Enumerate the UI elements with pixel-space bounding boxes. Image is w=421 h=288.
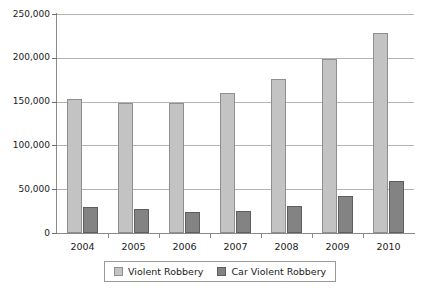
legend-label: Violent Robbery [128, 267, 203, 277]
bar-2007-series-0 [220, 93, 235, 233]
gridline [57, 145, 414, 146]
bar-chart: 050,000100,000150,000200,000250,000 2004… [0, 0, 421, 288]
bar-2004-series-0 [67, 99, 82, 233]
x-axis-tick-label: 2008 [262, 241, 312, 252]
y-axis-tick [52, 145, 57, 146]
bar-2009-series-0 [322, 59, 337, 233]
x-axis-line [56, 233, 415, 234]
x-axis-tick-label: 2005 [109, 241, 159, 252]
bar-2004-series-1 [83, 207, 98, 233]
bar-2008-series-0 [271, 79, 286, 233]
x-axis-tick-label: 2009 [313, 241, 363, 252]
x-axis-tick [261, 234, 262, 238]
y-axis-tick-label: 100,000 [0, 141, 50, 150]
bar-2005-series-1 [134, 209, 149, 233]
x-axis-tick-label: 2004 [58, 241, 108, 252]
chart-legend: Violent RobberyCar Violent Robbery [104, 261, 336, 282]
legend-swatch-icon [217, 267, 226, 276]
x-axis-tick-label: 2006 [160, 241, 210, 252]
gridline [57, 58, 414, 59]
plot-area [57, 14, 414, 233]
bar-2009-series-1 [338, 196, 353, 233]
legend-item-0: Violent Robbery [114, 267, 203, 277]
gridline [57, 102, 414, 103]
y-axis-tick [52, 189, 57, 190]
bar-2006-series-0 [169, 103, 184, 233]
x-axis-tick [159, 234, 160, 238]
bar-2010-series-1 [389, 181, 404, 233]
y-axis-tick-label: 0 [0, 229, 50, 238]
bar-2006-series-1 [185, 212, 200, 233]
x-axis-tick-label: 2010 [364, 241, 414, 252]
y-axis-tick-label: 200,000 [0, 53, 50, 62]
legend-item-1: Car Violent Robbery [217, 267, 326, 277]
gridline [57, 189, 414, 190]
x-axis-tick [312, 234, 313, 238]
x-axis-tick [108, 234, 109, 238]
legend-label: Car Violent Robbery [231, 267, 326, 277]
y-axis-labels: 050,000100,000150,000200,000250,000 [0, 0, 50, 288]
bar-2010-series-0 [373, 33, 388, 233]
y-axis-tick [52, 14, 57, 15]
bar-2005-series-0 [118, 103, 133, 233]
y-axis-tick-label: 150,000 [0, 97, 50, 106]
x-axis-tick [363, 234, 364, 238]
legend-swatch-icon [114, 267, 123, 276]
y-axis-tick [52, 102, 57, 103]
x-axis-tick-label: 2007 [211, 241, 261, 252]
y-axis-tick-label: 250,000 [0, 10, 50, 19]
gridline [57, 14, 414, 15]
y-axis-tick [52, 233, 57, 234]
y-axis-tick [52, 58, 57, 59]
bar-2008-series-1 [287, 206, 302, 233]
bar-2007-series-1 [236, 211, 251, 233]
y-axis-tick-label: 50,000 [0, 185, 50, 194]
x-axis-tick [210, 234, 211, 238]
